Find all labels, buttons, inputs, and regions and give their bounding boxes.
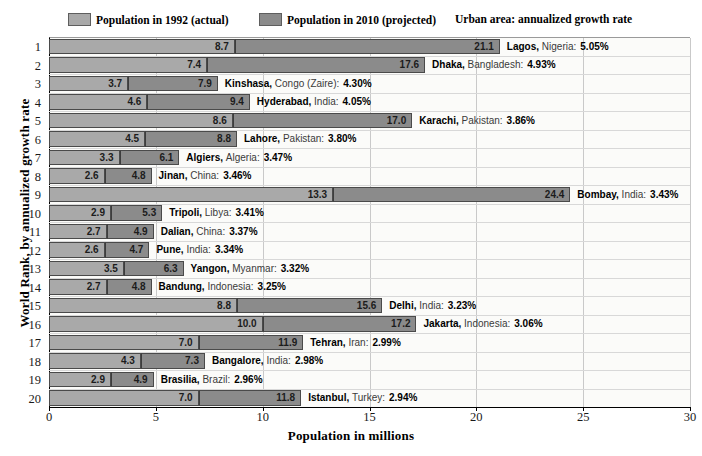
- bar-value-2010: 8.8: [217, 133, 236, 144]
- bar-value-2010: 6.3: [164, 263, 183, 274]
- bar-segment-1992: 3.7: [49, 76, 128, 92]
- city-label: Tehran, Iran:2.99%: [310, 335, 401, 349]
- bar-value-2010: 5.3: [142, 207, 161, 218]
- bar-value-1992: 13.3: [308, 189, 332, 200]
- bar-segment-1992: 2.7: [49, 224, 107, 240]
- city-growth-rate: 2.98%: [295, 355, 323, 366]
- bar-row: 913.324.4Bombay, India:3.43%: [0, 185, 702, 204]
- bar-segment-1992: 3.3: [49, 150, 120, 166]
- bar-segment-2010: 4.7: [105, 242, 150, 258]
- city-growth-rate: 3.43%: [650, 189, 678, 200]
- legend-label-2010: Population in 2010 (projected): [287, 14, 436, 26]
- legend-label-1992: Population in 1992 (actual): [96, 14, 229, 26]
- city-country: India:: [184, 244, 211, 255]
- city-name: Jinan,: [159, 170, 188, 181]
- city-name: Dhaka,: [432, 59, 465, 70]
- rank-label: 20: [0, 392, 41, 407]
- bar-segment-1992: 4.3: [49, 353, 141, 369]
- city-growth-rate: 2.94%: [389, 392, 417, 403]
- city-name: Brasilia,: [161, 374, 200, 385]
- bar-segment-1992: 8.6: [49, 113, 233, 129]
- bar-value-2010: 6.1: [159, 152, 178, 163]
- legend-item-2010: Population in 2010 (projected): [259, 13, 436, 26]
- city-growth-rate: 3.25%: [258, 281, 286, 292]
- city-country: Brazil:: [200, 374, 231, 385]
- city-label: Delhi, India:3.23%: [389, 298, 476, 312]
- city-label: Lagos, Nigeria:5.05%: [507, 39, 609, 53]
- bar-row: 122.64.7Pune, India:3.34%: [0, 241, 702, 260]
- city-name: Bangalore,: [212, 355, 264, 366]
- bar-value-2010: 11.9: [278, 337, 302, 348]
- city-label: Bombay, India:3.43%: [577, 187, 678, 201]
- bar-value-2010: 4.9: [134, 374, 153, 385]
- bar-row: 207.011.8Istanbul, Turkey:2.94%: [0, 389, 702, 408]
- legend-note-label: Urban area: annualized growth rate: [455, 13, 632, 25]
- bar-value-1992: 8.6: [213, 115, 232, 126]
- city-name: Istanbul,: [308, 392, 349, 403]
- bar-segment-1992: 7.0: [49, 390, 199, 406]
- bar-value-2010: 17.6: [400, 59, 424, 70]
- bar-segment-1992: 4.6: [49, 94, 147, 110]
- city-country: India:: [264, 355, 291, 366]
- city-growth-rate: 4.30%: [343, 78, 371, 89]
- bar-value-1992: 2.7: [87, 226, 106, 237]
- city-name: Bombay,: [577, 189, 619, 200]
- city-growth-rate: 3.80%: [328, 133, 356, 144]
- city-country: Nigeria:: [539, 41, 576, 52]
- bar-value-1992: 2.7: [87, 281, 106, 292]
- bar-value-2010: 7.3: [185, 355, 204, 366]
- bar-value-2010: 7.9: [198, 78, 217, 89]
- city-growth-rate: 5.05%: [580, 41, 608, 52]
- bar-value-2010: 17.0: [387, 115, 411, 126]
- bar-value-1992: 3.3: [100, 152, 119, 163]
- bar-value-1992: 4.5: [125, 133, 144, 144]
- city-label: Dalian, China:3.37%: [161, 224, 258, 238]
- city-growth-rate: 3.47%: [264, 152, 292, 163]
- bar-row: 58.617.0Karachi, Pakistan:3.86%: [0, 111, 702, 130]
- city-name: Yangon,: [191, 263, 230, 274]
- bar-value-2010: 17.2: [391, 318, 415, 329]
- city-growth-rate: 4.93%: [527, 59, 555, 70]
- bar-value-2010: 4.7: [130, 244, 149, 255]
- city-growth-rate: 3.06%: [514, 318, 542, 329]
- city-country: Congo (Zaire):: [272, 78, 339, 89]
- bar-row: 133.56.3Yangon, Myanmar:3.32%: [0, 259, 702, 278]
- bar-value-1992: 2.6: [85, 244, 104, 255]
- city-growth-rate: 3.86%: [507, 115, 535, 126]
- bar-segment-1992: 8.7: [49, 39, 235, 55]
- city-country: Bangladesh:: [465, 59, 523, 70]
- bar-value-1992: 7.0: [179, 337, 198, 348]
- legend-swatch-2010: [259, 13, 282, 26]
- x-axis-title: Population in millions: [0, 428, 702, 444]
- x-tick-label: 10: [248, 410, 278, 425]
- city-name: Kinshasa,: [225, 78, 272, 89]
- city-label: Istanbul, Turkey:2.94%: [308, 391, 417, 405]
- bar-segment-2010: 11.9: [199, 335, 304, 351]
- city-growth-rate: 2.99%: [372, 337, 400, 348]
- city-name: Tehran,: [310, 337, 345, 348]
- bar-value-1992: 3.5: [104, 263, 123, 274]
- y-axis-title: World Rank, by annualized growth rate: [17, 48, 33, 378]
- city-country: India:: [417, 300, 444, 311]
- bar-value-1992: 2.9: [91, 374, 110, 385]
- city-country: Myanmar:: [230, 263, 277, 274]
- x-tick-label: 5: [141, 410, 171, 425]
- city-label: Tripoli, Libya:3.41%: [169, 206, 264, 220]
- bar-row: 82.64.8Jinan, China:3.46%: [0, 167, 702, 186]
- bar-segment-2010: 4.9: [107, 224, 154, 240]
- bar-value-1992: 7.4: [187, 59, 206, 70]
- city-label: Karachi, Pakistan:3.86%: [419, 113, 535, 127]
- bar-value-1992: 4.6: [127, 96, 146, 107]
- bar-segment-1992: 13.3: [49, 187, 333, 203]
- bar-row: 177.011.9Tehran, Iran:2.99%: [0, 333, 702, 352]
- city-name: Jakarta,: [424, 318, 462, 329]
- bar-value-1992: 2.9: [91, 207, 110, 218]
- bar-segment-1992: 4.5: [49, 131, 145, 147]
- bar-value-2010: 9.4: [230, 96, 249, 107]
- city-name: Lagos,: [507, 41, 539, 52]
- bar-row: 1610.017.2Jakarta, Indonesia:3.06%: [0, 315, 702, 334]
- bar-value-2010: 15.6: [357, 300, 381, 311]
- bar-value-2010: 11.8: [276, 392, 300, 403]
- bar-segment-2010: 17.2: [263, 316, 417, 332]
- bar-segment-2010: 17.0: [233, 113, 412, 129]
